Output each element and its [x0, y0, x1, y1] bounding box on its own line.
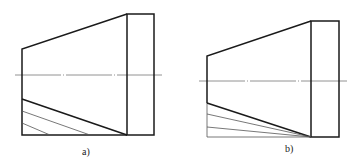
figure-a: a) [15, 14, 162, 158]
aux-line-a-2 [22, 123, 50, 135]
cylinder-rect-a [127, 14, 154, 135]
figure-label-a: a) [82, 146, 90, 158]
technical-drawing: a) b) [0, 0, 355, 167]
figure-b: b) [199, 21, 347, 155]
aux-line-a-1 [22, 111, 90, 135]
cylinder-rect-b [311, 21, 339, 137]
figure-label-b: b) [285, 143, 293, 155]
aux-line-b-1 [207, 114, 311, 137]
cone-outline-b [207, 21, 311, 103]
